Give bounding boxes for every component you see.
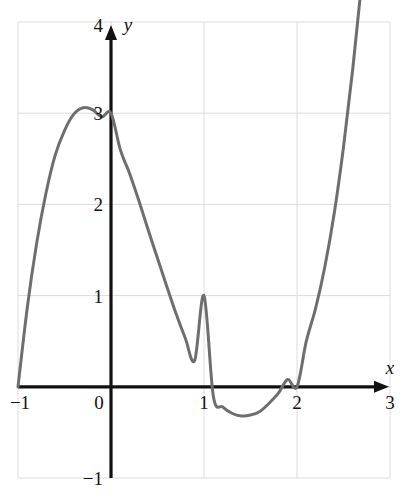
x-tick-label: 0 [94, 392, 104, 413]
chart-background [0, 0, 404, 502]
y-tick-label: 2 [94, 194, 104, 215]
x-tick-label: 2 [292, 392, 302, 413]
y-tick-label: 4 [94, 15, 104, 36]
y-axis-label: y [122, 14, 133, 35]
x-tick-label: 3 [385, 392, 395, 413]
x-tick-label: −1 [10, 392, 30, 413]
y-tick-label: 3 [94, 103, 104, 124]
y-tick-label: −1 [83, 468, 103, 489]
plot-area: −10123 −11234 x y [0, 0, 404, 502]
x-tick-label: 1 [199, 392, 209, 413]
y-tick-label: 1 [94, 286, 104, 307]
cubic-function-graph: −10123 −11234 x y [0, 0, 404, 502]
x-axis-label: x [385, 357, 395, 378]
